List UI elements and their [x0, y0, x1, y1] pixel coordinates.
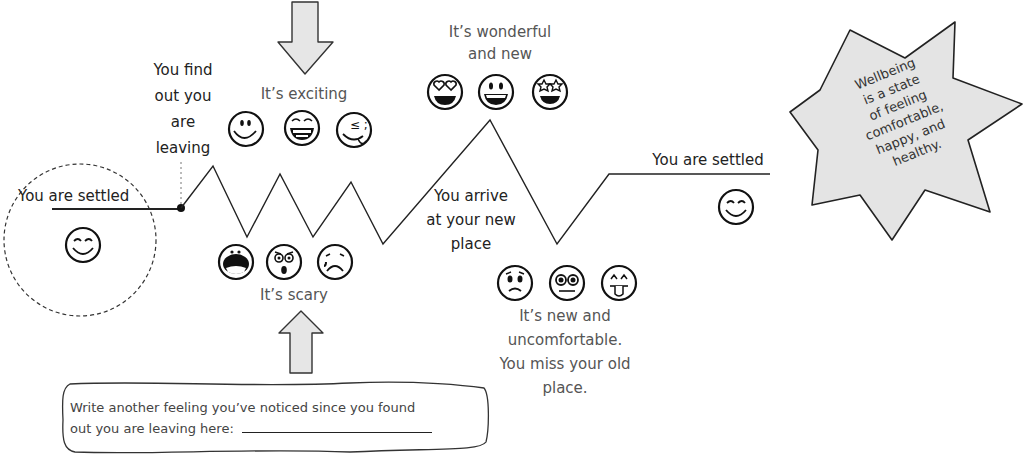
up-arrow-icon: [279, 311, 323, 373]
shocked-emoji-icon: [267, 245, 301, 279]
find-out-label-1: You find: [138, 60, 228, 80]
smiling-closed-eyes-end-icon: [719, 190, 753, 224]
silly-tongue-emoji-icon: ≤ ;: [337, 113, 371, 147]
find-out-label-4: leaving: [138, 138, 228, 158]
wonderful-label-2: and new: [420, 44, 580, 64]
settled-start-label: You are settled: [18, 186, 129, 206]
heart-eyes-emoji-icon: [428, 75, 462, 109]
screaming-emoji-icon: [219, 245, 253, 279]
feeling-answer-blank[interactable]: [242, 418, 432, 433]
prompt-line-2: out you are leaving here:: [70, 421, 234, 436]
feeling-prompt: Write another feeling you’ve noticed sin…: [70, 398, 432, 439]
down-arrow-icon: [278, 2, 333, 74]
arrive-label-2: at your new: [416, 210, 526, 230]
tongue-out-emoji-icon: [602, 266, 636, 300]
uncomfortable-label-2: uncomfortable.: [480, 330, 650, 350]
scary-label: It’s scary: [234, 285, 354, 305]
smile-emoji-icon: [229, 112, 263, 146]
smiling-closed-eyes-icon: [66, 228, 100, 262]
settled-end-label: You are settled: [646, 150, 770, 170]
svg-text:≤ ;: ≤ ;: [350, 118, 368, 132]
wonderful-label-1: It’s wonderful: [420, 22, 580, 42]
star-struck-emoji-icon: [533, 75, 567, 109]
arrive-label-1: You arrive: [416, 186, 526, 206]
uncomfortable-label-1: It’s new and: [480, 306, 650, 326]
uncomfortable-label-4: place.: [480, 378, 650, 398]
worried-emoji-icon: [498, 266, 532, 300]
prompt-line-1: Write another feeling you’ve noticed sin…: [70, 398, 432, 418]
exciting-label: It’s exciting: [236, 84, 372, 104]
dizzy-eyes-emoji-icon: [550, 266, 584, 300]
crying-emoji-icon: [318, 245, 352, 279]
big-grin-emoji-icon: [479, 75, 513, 109]
find-out-label-2: out you: [138, 86, 228, 106]
grin-teeth-emoji-icon: [285, 111, 319, 145]
uncomfortable-label-3: You miss your old: [480, 354, 650, 374]
find-out-label-3: are: [138, 112, 228, 132]
arrive-label-3: place: [416, 234, 526, 254]
